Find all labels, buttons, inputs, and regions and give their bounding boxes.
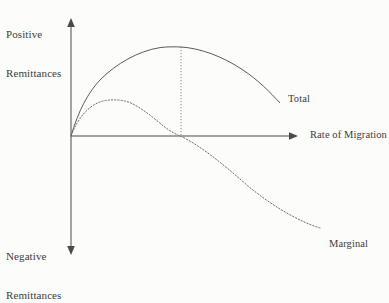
x-axis-right-arrow-icon: [289, 132, 298, 140]
y-axis-negative-label-line1: Negative: [6, 250, 61, 263]
y-axis-down-arrow-icon: [67, 246, 75, 255]
y-axis-negative-label: Negative Remittances: [6, 224, 61, 303]
y-axis-positive-label-line2: Remittances: [6, 67, 61, 80]
marginal-curve-label: Marginal: [329, 238, 368, 250]
total-curve: [71, 47, 280, 136]
y-axis-up-arrow-icon: [67, 18, 75, 27]
marginal-curve: [71, 100, 320, 228]
y-axis-negative-label-line2: Remittances: [6, 289, 61, 302]
x-axis-label: Rate of Migration: [310, 129, 387, 141]
y-axis-positive-label: Positive Remittances: [6, 2, 61, 106]
total-curve-label: Total: [288, 93, 310, 105]
y-axis-positive-label-line1: Positive: [6, 28, 61, 41]
